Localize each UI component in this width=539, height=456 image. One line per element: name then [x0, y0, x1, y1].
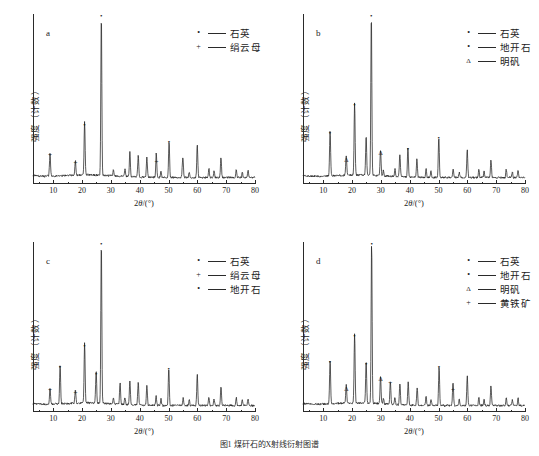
peak-marker-icon: •: [95, 371, 97, 378]
peak-marker-icon: •: [407, 146, 409, 153]
peak-marker-icon: •: [365, 361, 367, 368]
x-tick-label: 30: [377, 414, 385, 423]
peak-marker-icon: +: [451, 387, 455, 394]
x-tick-label: 80: [521, 414, 529, 423]
x-tick-label: 10: [319, 414, 327, 423]
x-tick-label: 50: [435, 414, 443, 423]
peak-marker-icon: •: [168, 139, 170, 146]
x-tick-label: 20: [348, 414, 356, 423]
x-tick-label: 50: [165, 414, 173, 423]
x-tick-label: 20: [78, 414, 86, 423]
peak-marker-icon: Δ: [344, 386, 348, 393]
panel-b: 强度（计数） b •石英•地开石Δ明矾 1020304050607080 2θ/…: [270, 0, 539, 228]
xrd-trace: [33, 242, 255, 412]
x-tick: [255, 408, 256, 412]
x-tick-label: 60: [463, 414, 471, 423]
x-tick-label: 30: [377, 186, 385, 195]
peak-marker-icon: Δ: [344, 156, 348, 163]
peak-marker-icon: •: [329, 130, 331, 137]
x-tick-label: 40: [406, 186, 414, 195]
peak-marker-icon: •: [329, 359, 331, 366]
x-tick-label: 60: [193, 414, 201, 423]
plot-area-c: 强度（计数） c •石英+绢云母•地开石 1020304050607080 2θ…: [0, 228, 269, 456]
x-axis-label: 2θ/(°): [303, 198, 525, 208]
peak-marker-icon: +: [154, 159, 158, 166]
peak-marker-icon: •: [438, 364, 440, 371]
x-tick-label: 70: [222, 186, 230, 195]
x-tick-label: 10: [319, 186, 327, 195]
x-axis-label: 2θ/(°): [33, 426, 255, 436]
x-tick: [525, 180, 526, 184]
peak-marker-icon: +: [73, 160, 77, 167]
peak-marker-icon: •: [438, 135, 440, 142]
x-tick-label: 30: [107, 186, 115, 195]
x-axis-label: 2θ/(°): [33, 198, 255, 208]
peak-marker-icon: •: [59, 364, 61, 371]
plot-area-a: 强度（计数） a •石英+绢云母 1020304050607080 2θ/(°)…: [0, 0, 269, 228]
x-tick-label: 40: [136, 414, 144, 423]
xrd-figure: 强度（计数） a •石英+绢云母 1020304050607080 2θ/(°)…: [0, 0, 539, 456]
plot-area-b: 强度（计数） b •石英•地开石Δ明矾 1020304050607080 2θ/…: [270, 0, 539, 228]
peak-marker-icon: +: [73, 390, 77, 397]
peak-marker-icon: •: [100, 241, 102, 248]
peak-marker-icon: +: [48, 152, 52, 159]
x-tick-label: 50: [165, 186, 173, 195]
x-tick-label: 20: [348, 186, 356, 195]
figure-caption: 图1 煤矸石的X射线衍射图谱: [0, 438, 539, 456]
x-tick: [525, 408, 526, 412]
x-axis-label: 2θ/(°): [303, 426, 525, 436]
x-tick-label: 60: [463, 186, 471, 195]
peak-marker-icon: +: [388, 380, 392, 387]
peak-marker-icon: Δ: [378, 376, 382, 383]
x-tick: [255, 180, 256, 184]
x-tick-label: 70: [492, 414, 500, 423]
x-tick-label: 50: [435, 186, 443, 195]
x-tick-label: 40: [136, 186, 144, 195]
x-tick-label: 10: [49, 414, 57, 423]
x-tick-label: 30: [107, 414, 115, 423]
panel-d: 强度（计数） d •石英•地开石Δ明矾+黄铁矿 1020304050607080…: [270, 228, 539, 456]
x-tick-label: 70: [492, 186, 500, 195]
xrd-trace: [303, 242, 525, 412]
xrd-trace: [33, 14, 255, 184]
peak-marker-icon: •: [168, 366, 170, 373]
panel-c: 强度（计数） c •石英+绢云母•地开石 1020304050607080 2θ…: [0, 228, 269, 456]
x-tick-label: 60: [193, 186, 201, 195]
x-tick-label: 70: [222, 414, 230, 423]
x-tick-label: 80: [251, 414, 259, 423]
x-tick-label: 80: [251, 186, 259, 195]
peak-marker-icon: Δ: [378, 150, 382, 157]
xrd-trace: [303, 14, 525, 184]
x-tick-label: 10: [49, 186, 57, 195]
peak-marker-icon: +: [48, 387, 52, 394]
panel-a: 强度（计数） a •石英+绢云母 1020304050607080 2θ/(°)…: [0, 0, 269, 228]
x-tick-label: 40: [406, 414, 414, 423]
x-tick-label: 20: [78, 186, 86, 195]
peak-marker-icon: •: [83, 122, 85, 129]
peak-marker-icon: •: [100, 13, 102, 20]
peak-marker-icon: •: [370, 241, 372, 248]
peak-marker-icon: •: [353, 333, 355, 340]
peak-marker-icon: •: [83, 343, 85, 350]
x-tick-label: 80: [521, 186, 529, 195]
plot-area-d: 强度（计数） d •石英•地开石Δ明矾+黄铁矿 1020304050607080…: [270, 228, 539, 456]
peak-marker-icon: •: [353, 102, 355, 109]
peak-marker-icon: •: [370, 13, 372, 20]
